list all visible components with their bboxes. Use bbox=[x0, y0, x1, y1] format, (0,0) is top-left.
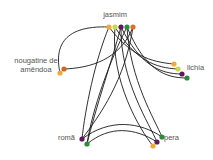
diagram-background bbox=[0, 0, 213, 160]
lichia-node-dot-2 bbox=[179, 71, 184, 76]
lichia-node-dot-0 bbox=[171, 61, 176, 66]
lichia-node-dot-1 bbox=[175, 66, 180, 71]
lichia-label: lichia bbox=[187, 63, 205, 72]
nougatine-node-dot-1 bbox=[57, 70, 62, 75]
roma-node-dot-1 bbox=[84, 141, 89, 146]
lichia-node-dot-3 bbox=[184, 75, 189, 80]
nougatine-node-dot-0 bbox=[61, 66, 66, 71]
roma-label: romã bbox=[58, 133, 76, 142]
jasmim-node-dot-1 bbox=[112, 24, 117, 29]
jasmim-node-dot-4 bbox=[130, 24, 135, 29]
network-diagram: jasmimnougatine deamêndoalichiaromãpera bbox=[0, 0, 213, 160]
jasmim-label: jasmim bbox=[102, 10, 127, 19]
pera-node-dot-1 bbox=[154, 139, 159, 144]
pera-node-dot-2 bbox=[150, 143, 155, 148]
jasmim-node-dot-0 bbox=[106, 24, 111, 29]
roma-node-dot-0 bbox=[79, 136, 84, 141]
jasmim-node-dot-3 bbox=[124, 24, 129, 29]
pera-label: pera bbox=[164, 133, 180, 142]
nougatine-label: nougatine deamêndoa bbox=[14, 56, 57, 74]
jasmim-node-dot-2 bbox=[118, 24, 123, 29]
